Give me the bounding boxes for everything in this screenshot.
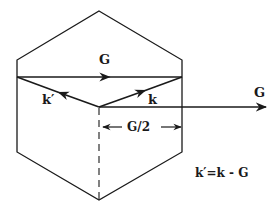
k-vector bbox=[99, 77, 182, 107]
brillouin-zone-diagram: G k′ k G G/2 k′=k - G bbox=[0, 0, 278, 215]
label-g-half: G/2 bbox=[127, 120, 150, 134]
equation-label: k′=k - G bbox=[195, 166, 248, 180]
label-g-top: G bbox=[99, 52, 110, 67]
label-k: k bbox=[148, 92, 158, 107]
k-prime-vector bbox=[17, 77, 99, 107]
label-g-right: G bbox=[254, 85, 265, 100]
label-k-prime: k′ bbox=[42, 92, 55, 107]
